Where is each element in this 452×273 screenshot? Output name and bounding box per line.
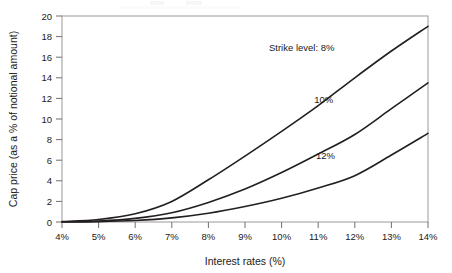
y-tick-label: 14 (41, 72, 52, 83)
y-tick-label: 18 (41, 31, 52, 42)
y-tick-label: 8 (47, 134, 52, 145)
series-annotation-strike-10: 10% (314, 94, 334, 105)
y-tick-label: 6 (47, 155, 52, 166)
y-tick-label: 2 (47, 196, 52, 207)
y-tick-label: 0 (47, 217, 52, 228)
chart-figure: 20 18 16 14 12 10 8 6 4 2 0 (0, 0, 452, 273)
x-tick-label: 4% (55, 231, 69, 242)
x-axis-title: Interest rates (%) (205, 255, 286, 267)
x-tick-label: 6% (128, 231, 142, 242)
series-annotation-strike-12: 12% (316, 150, 336, 161)
x-tick-label: 14% (418, 231, 438, 242)
y-axis-title: Cap price (as a % of notional amount) (7, 31, 19, 207)
x-tick-label: 13% (382, 231, 402, 242)
x-tick-label: 12% (345, 231, 365, 242)
series-annotation-strike-8: Strike level: 8% (269, 42, 335, 53)
cap-price-line-chart: 20 18 16 14 12 10 8 6 4 2 0 (0, 0, 452, 273)
x-tick-label: 7% (165, 231, 179, 242)
y-tick-label: 16 (41, 52, 52, 63)
y-tick-label: 10 (41, 114, 52, 125)
y-tick-label: 4 (47, 175, 52, 186)
x-tick-label: 9% (238, 231, 252, 242)
y-tick-label: 20 (41, 11, 52, 22)
x-tick-label: 5% (92, 231, 106, 242)
x-tick-label: 10% (272, 231, 292, 242)
x-tick-label: 11% (309, 231, 328, 242)
y-tick-label: 12 (41, 93, 52, 104)
x-tick-label: 8% (202, 231, 216, 242)
